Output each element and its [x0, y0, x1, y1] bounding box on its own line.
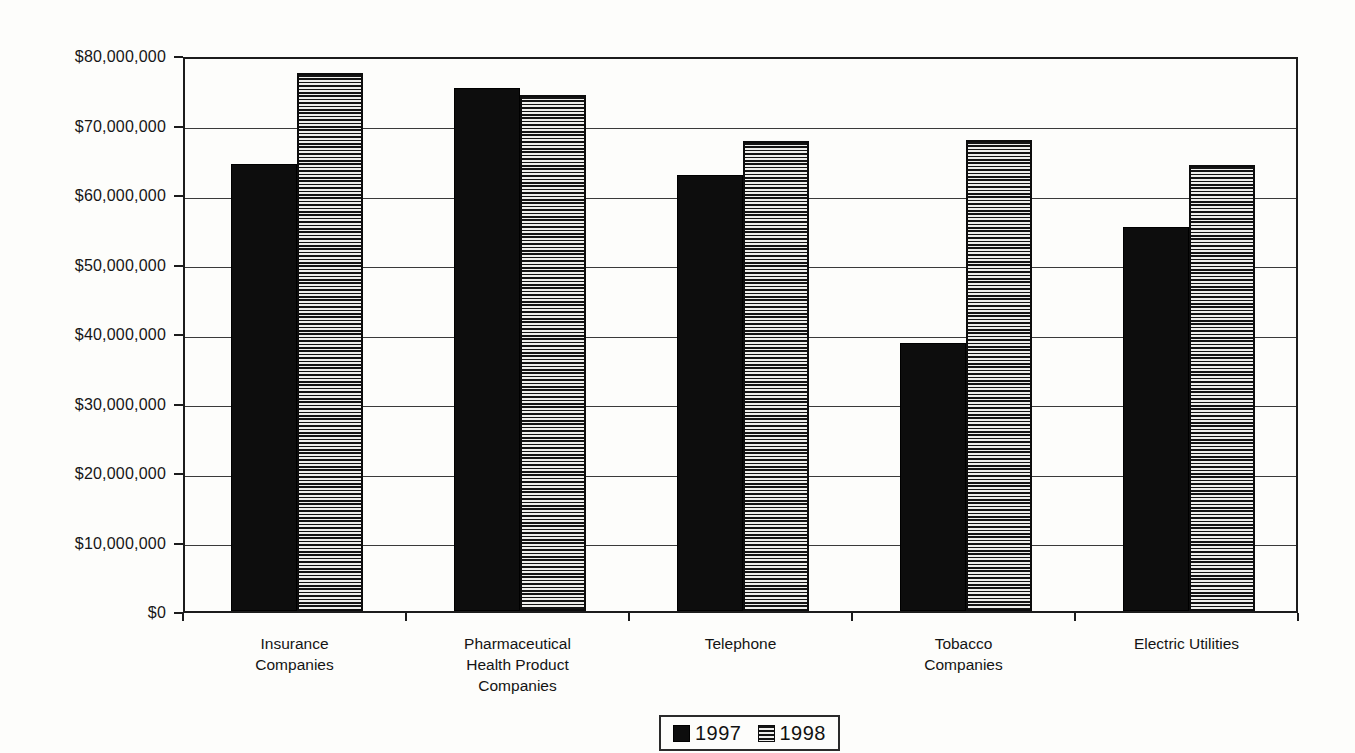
xtick-mark: [851, 613, 853, 621]
legend-label-1997: 1997: [695, 722, 742, 745]
legend-label-1998: 1998: [780, 722, 827, 745]
ytick-label-80m: $80,000,000: [0, 47, 166, 67]
ytick-label-40m: $40,000,000: [0, 325, 166, 345]
ytick-label-60m: $60,000,000: [0, 186, 166, 206]
bar-chart: 1997 1998 $0$10,000,000$20,000,000$30,00…: [0, 0, 1355, 753]
ytick-label-50m: $50,000,000: [0, 256, 166, 276]
bar-1997-insurance-companies: [231, 164, 297, 611]
ytick-label-0m: $0: [0, 603, 166, 623]
bar-1997-telephone: [677, 175, 743, 611]
category-label-line: Insurance: [183, 633, 406, 654]
ytick-mark: [174, 404, 183, 406]
ytick-mark: [174, 195, 183, 197]
bar-1998-pharmaceutical-health-product-companies: [520, 95, 586, 611]
legend-item-1997: 1997: [673, 722, 742, 745]
bar-1998-telephone: [743, 141, 809, 612]
category-label-tobacco-companies: TobaccoCompanies: [852, 633, 1075, 675]
xtick-mark: [182, 613, 184, 621]
plot-area: [183, 57, 1298, 613]
legend-swatch-1998-striped-icon: [758, 725, 775, 742]
category-label-line: Companies: [406, 675, 629, 696]
bar-1998-electric-utilities: [1189, 165, 1255, 611]
ytick-mark: [174, 126, 183, 128]
category-label-line: Pharmaceutical: [406, 633, 629, 654]
ytick-label-20m: $20,000,000: [0, 464, 166, 484]
bar-1998-insurance-companies: [297, 73, 363, 611]
category-label-line: Tobacco: [852, 633, 1075, 654]
category-label-insurance-companies: InsuranceCompanies: [183, 633, 406, 675]
ytick-label-70m: $70,000,000: [0, 117, 166, 137]
legend: 1997 1998: [659, 715, 840, 751]
category-label-line: Electric Utilities: [1075, 633, 1298, 654]
category-label-line: Companies: [852, 654, 1075, 675]
ytick-mark: [174, 334, 183, 336]
xtick-mark: [1074, 613, 1076, 621]
category-label-pharmaceutical-health-product-companies: PharmaceuticalHealth ProductCompanies: [406, 633, 629, 696]
ytick-mark: [174, 56, 183, 58]
bar-1997-pharmaceutical-health-product-companies: [454, 88, 520, 611]
bar-1997-tobacco-companies: [900, 343, 966, 611]
bar-1998-tobacco-companies: [966, 140, 1032, 611]
xtick-mark: [1297, 613, 1299, 621]
category-label-telephone: Telephone: [629, 633, 852, 654]
category-label-electric-utilities: Electric Utilities: [1075, 633, 1298, 654]
ytick-label-10m: $10,000,000: [0, 534, 166, 554]
legend-item-1998: 1998: [758, 722, 827, 745]
category-label-line: Health Product: [406, 654, 629, 675]
ytick-mark: [174, 543, 183, 545]
xtick-mark: [405, 613, 407, 621]
legend-swatch-1997-solid-icon: [673, 725, 690, 742]
xtick-mark: [628, 613, 630, 621]
ytick-mark: [174, 265, 183, 267]
bar-1997-electric-utilities: [1123, 227, 1189, 611]
category-label-line: Telephone: [629, 633, 852, 654]
category-label-line: Companies: [183, 654, 406, 675]
ytick-mark: [174, 473, 183, 475]
ytick-label-30m: $30,000,000: [0, 395, 166, 415]
